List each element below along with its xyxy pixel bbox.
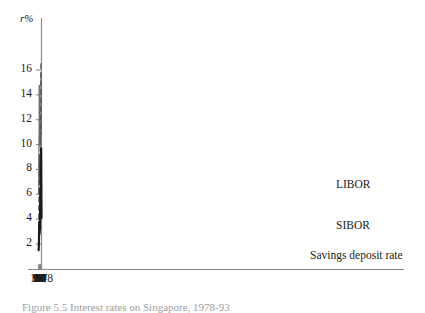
x-axis-ticks — [39, 265, 42, 270]
series-label-libor: LIBOR — [336, 178, 371, 190]
y-tick-label: 8 — [10, 161, 32, 173]
line-chart-plot — [0, 0, 425, 313]
series-label-sibor: SIBOR — [336, 219, 370, 231]
figure-caption: Figure 5.5 Interest rates on Singapore, … — [22, 301, 230, 313]
y-tick-label: 16 — [10, 62, 32, 74]
y-tick-label: 2 — [10, 236, 32, 248]
y-tick-label: 6 — [10, 186, 32, 198]
y-tick-label: 4 — [10, 211, 32, 223]
y-tick-label: 14 — [10, 87, 32, 99]
series-label-savings-deposit-rate: Savings deposit rate — [310, 249, 403, 261]
y-tick-label: 12 — [10, 112, 32, 124]
y-tick-label: 10 — [10, 137, 32, 149]
x-tick-label: 93 — [19, 272, 59, 284]
series-paths-group — [39, 64, 42, 250]
y-axis-title: r% — [20, 12, 33, 24]
figure-container: r% 246810121416 19788082848688909293 LIB… — [0, 0, 425, 313]
